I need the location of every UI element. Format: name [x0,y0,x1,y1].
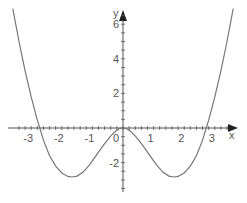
ticks: -3-2-10123-2246 [19,16,227,189]
x-tick-label: -2 [54,132,64,144]
y-tick-label: 2 [113,87,119,99]
x-tick-label: -3 [23,132,33,144]
x-tick-label: 0 [113,132,119,144]
y-tick-label: 4 [113,53,119,65]
y-tick-label: 6 [113,18,119,30]
x-tick-label: -1 [85,132,95,144]
function-plot: xy -3-2-10123-2246 [0,0,247,203]
y-tick-label: -2 [109,157,119,169]
axes: xy [8,7,238,192]
x-tick-label: 2 [178,132,184,144]
x-tick-label: 3 [209,132,215,144]
x-axis-label: x [229,129,235,141]
y-axis-label: y [113,7,119,19]
x-tick-label: 1 [148,132,154,144]
